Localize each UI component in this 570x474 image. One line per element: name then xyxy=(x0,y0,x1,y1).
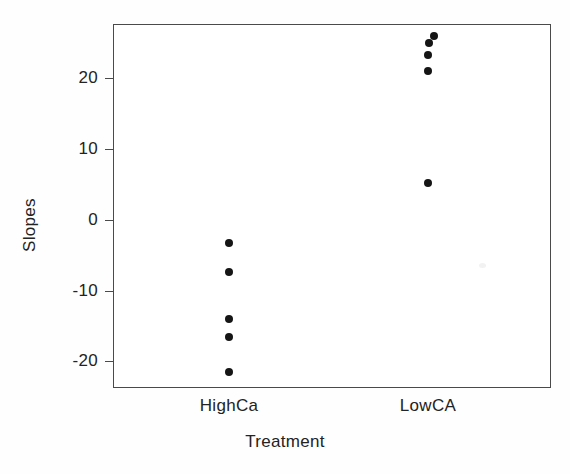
scatter-plot-figure: 20 10 0 -10 -20 HighCa LowCA Treatment S… xyxy=(0,0,570,474)
data-point-lowca-8 xyxy=(424,67,432,75)
data-point-lowca-6 xyxy=(425,39,433,47)
data-point-lowca-9 xyxy=(424,179,432,187)
x-tick-label-lowca: LowCA xyxy=(348,396,508,416)
y-tick-mark-0 xyxy=(105,220,113,221)
plot-frame xyxy=(113,24,551,388)
y-tick-label-10: 10 xyxy=(36,139,98,159)
data-point-highca-1 xyxy=(225,268,233,276)
y-tick-mark-10 xyxy=(105,149,113,150)
data-point-highca-2 xyxy=(225,315,233,323)
y-axis-title: Slopes xyxy=(20,165,40,285)
scan-artifact xyxy=(479,263,486,268)
y-tick-label-neg20: -20 xyxy=(36,351,98,371)
x-tick-label-highca: HighCa xyxy=(149,396,309,416)
y-tick-mark-neg10 xyxy=(105,291,113,292)
data-point-highca-3 xyxy=(225,333,233,341)
y-tick-label-neg10: -10 xyxy=(36,281,98,301)
data-point-highca-0 xyxy=(225,239,233,247)
y-tick-mark-20 xyxy=(105,78,113,79)
y-tick-mark-neg20 xyxy=(105,361,113,362)
data-point-lowca-7 xyxy=(424,51,432,59)
data-point-highca-4 xyxy=(225,368,233,376)
y-tick-label-0: 0 xyxy=(36,210,98,230)
y-tick-label-20: 20 xyxy=(36,68,98,88)
x-axis-title: Treatment xyxy=(0,432,570,452)
